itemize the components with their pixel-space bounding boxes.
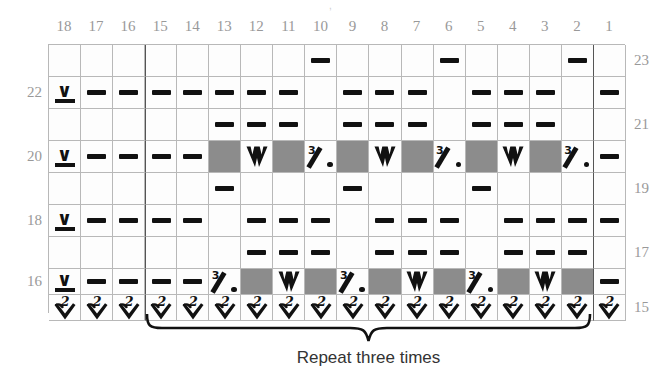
stitch-cell — [498, 77, 530, 109]
stitch-cell — [337, 141, 369, 173]
stitch-cell — [81, 77, 113, 109]
purl-dash-icon — [311, 250, 330, 255]
stitch-cell — [305, 109, 337, 141]
purl-dash-icon — [87, 154, 106, 159]
row-label-left-22: 22 — [8, 84, 42, 100]
purl-dash-icon — [568, 218, 587, 223]
purl-dash-icon — [440, 250, 459, 255]
stitch-cell — [177, 237, 209, 269]
three-wrap-slash-dot-icon: 3 — [340, 270, 366, 293]
table-row: ∨333 — [49, 269, 626, 295]
purl-dash-icon — [343, 122, 362, 127]
purl-dash-icon — [87, 218, 106, 223]
column-header-12: 12 — [240, 16, 272, 36]
row-label-right-21: 21 — [634, 116, 668, 132]
stitch-cell — [81, 173, 113, 205]
stitch-cell — [337, 237, 369, 269]
stitch-cell — [562, 237, 594, 269]
two-stitches-down-arrow-icon: 2 — [85, 296, 109, 320]
purl-dash-icon — [408, 122, 427, 127]
stitch-cell — [402, 109, 434, 141]
purl-dash-icon — [152, 90, 171, 95]
stitch-cell — [209, 205, 241, 237]
stitch-cell — [113, 77, 145, 109]
stitch-cell — [177, 45, 209, 77]
stitch-cell — [594, 205, 626, 237]
stitch-cell — [81, 237, 113, 269]
purl-dash-icon — [375, 90, 394, 95]
stitch-cell — [145, 77, 177, 109]
stitch-cell — [498, 45, 530, 77]
stitch-cell — [562, 77, 594, 109]
stitch-cell — [241, 237, 273, 269]
purl-dash-icon — [375, 250, 394, 255]
stitch-cell — [498, 269, 530, 295]
purl-dash-icon — [311, 218, 330, 223]
purl-dash-icon — [600, 218, 619, 223]
column-header-1: 1 — [593, 16, 625, 36]
stitch-cell — [562, 109, 594, 141]
stitch-cell — [241, 141, 273, 173]
stitch-cell — [145, 173, 177, 205]
stitch-cell — [241, 269, 273, 295]
stitch-cell — [305, 45, 337, 77]
stitch-cell: ∨ — [49, 205, 81, 237]
stitch-cell — [273, 237, 305, 269]
column-header-9: 9 — [337, 16, 369, 36]
stitch-cell — [305, 237, 337, 269]
stitch-cell — [466, 205, 498, 237]
slip-stitch-v-underline-icon: ∨ — [54, 271, 76, 293]
purl-dash-icon — [568, 250, 587, 255]
stitch-cell — [466, 237, 498, 269]
purl-dash-icon — [568, 58, 587, 63]
stitch-cell — [273, 77, 305, 109]
purl-dash-icon — [504, 122, 523, 127]
purl-dash-icon — [215, 90, 234, 95]
stitch-cell — [145, 141, 177, 173]
stitch-cell — [402, 173, 434, 205]
stitch-cell: 3 — [209, 269, 241, 295]
stitch-cell — [145, 269, 177, 295]
stitch-cell — [241, 77, 273, 109]
purl-dash-icon — [472, 90, 491, 95]
column-header-16: 16 — [112, 16, 144, 36]
stitch-cell — [562, 173, 594, 205]
stitch-cell — [273, 173, 305, 205]
stitch-cell — [337, 77, 369, 109]
purl-dash-icon — [600, 279, 619, 284]
stitch-cell — [498, 141, 530, 173]
stitch-cell — [498, 237, 530, 269]
stitch-cell — [273, 205, 305, 237]
stitch-cell — [113, 205, 145, 237]
stitch-cell: 3 — [434, 141, 466, 173]
stitch-cell — [594, 141, 626, 173]
purl-dash-icon — [311, 58, 330, 63]
stitch-cell — [81, 45, 113, 77]
purl-dash-icon — [279, 250, 298, 255]
purl-dash-icon — [600, 154, 619, 159]
stitch-cell — [369, 45, 401, 77]
purl-dash-icon — [375, 218, 394, 223]
stitch-cell — [49, 109, 81, 141]
stitch-cell — [594, 77, 626, 109]
stitch-cell — [209, 141, 241, 173]
stitch-cell — [49, 237, 81, 269]
central-double-decrease-icon — [534, 270, 556, 293]
stitch-cell — [273, 45, 305, 77]
column-header-6: 6 — [433, 16, 465, 36]
stitch-cell — [177, 269, 209, 295]
stitch-cell — [305, 205, 337, 237]
purl-dash-icon — [279, 218, 298, 223]
stitch-cell: ∨ — [49, 141, 81, 173]
stitch-cell — [81, 269, 113, 295]
central-double-decrease-icon — [246, 145, 268, 168]
purl-dash-icon — [440, 58, 459, 63]
stitch-cell — [337, 205, 369, 237]
stitch-cell — [337, 109, 369, 141]
stitch-cell — [530, 173, 562, 205]
stitch-cell — [562, 45, 594, 77]
column-header-17: 17 — [80, 16, 112, 36]
stitch-cell — [177, 141, 209, 173]
two-stitches-down-arrow-icon: 2 — [117, 296, 141, 320]
stitch-cell — [337, 45, 369, 77]
